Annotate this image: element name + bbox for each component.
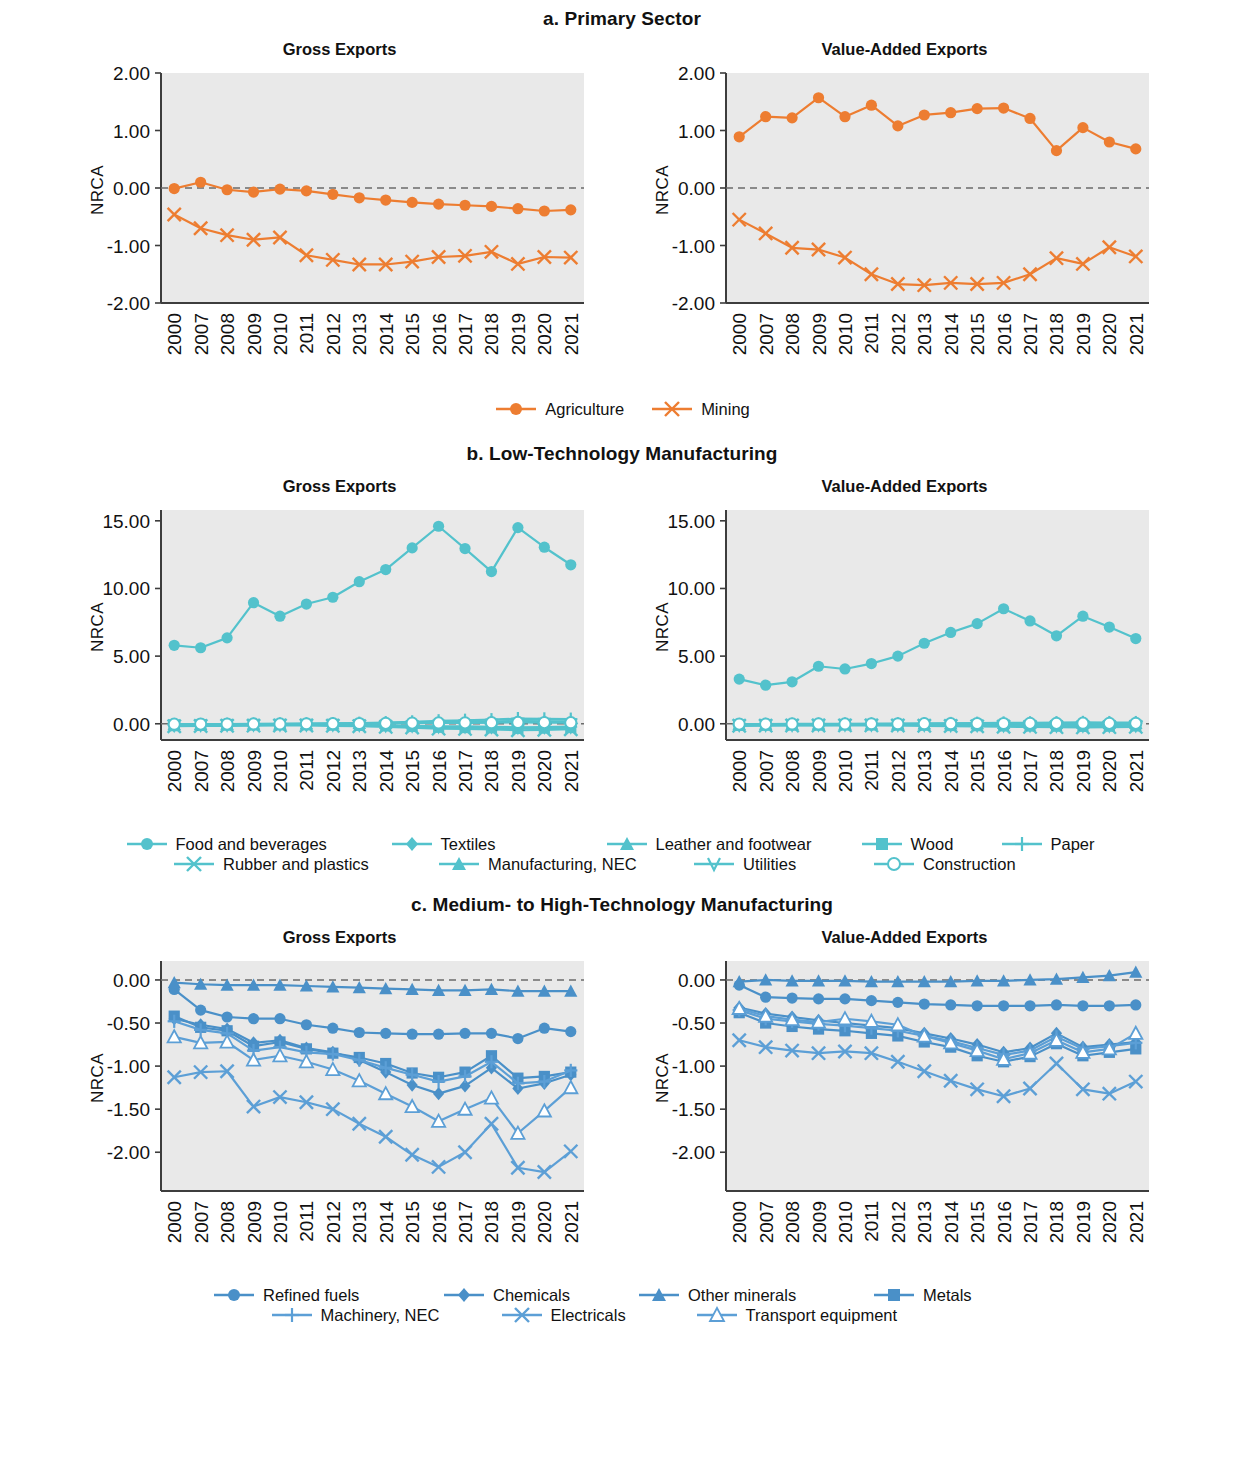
legend-item-transport-equipment[interactable]: Transport equipment	[695, 1305, 975, 1325]
svg-text:2013: 2013	[914, 1201, 935, 1243]
chart-c-gross-svg: 0.00-0.50-1.00-1.50-2.002000200720082009…	[87, 953, 592, 1283]
svg-text:2007: 2007	[756, 313, 777, 355]
panel-b-title: b. Low-Technology Manufacturing	[0, 443, 1244, 465]
svg-text:-0.50: -0.50	[672, 1013, 715, 1034]
svg-text:2008: 2008	[782, 1201, 803, 1243]
legend-item-leather-and-footwear[interactable]: Leather and footwear	[605, 834, 860, 854]
legend-item-wood[interactable]: Wood	[860, 834, 1000, 854]
legend-marker-cross-icon	[650, 399, 694, 419]
chart-a-va-ylabel: NRCA	[653, 165, 673, 215]
svg-text:-2.00: -2.00	[107, 293, 150, 314]
chart-c-gross-ylabel: NRCA	[88, 1053, 108, 1103]
chart-b-gross-title: Gross Exports	[87, 477, 592, 496]
svg-text:2013: 2013	[349, 1201, 370, 1243]
legend-panel-c: Refined fuelsChemicalsOther mineralsMeta…	[172, 1285, 1072, 1325]
legend-item-label: Agriculture	[545, 400, 624, 419]
svg-text:2007: 2007	[756, 1201, 777, 1243]
legend-item-paper[interactable]: Paper	[1000, 834, 1120, 854]
legend-marker-triangle-icon	[637, 1285, 681, 1305]
legend-panel-a: AgricultureMining	[0, 399, 1244, 419]
svg-text:2000: 2000	[729, 313, 750, 355]
legend-marker-circle-open-icon	[872, 854, 916, 874]
legend-item-utilities[interactable]: Utilities	[692, 854, 872, 874]
legend-item-label: Other minerals	[688, 1286, 796, 1305]
chart-b-gross-svg: 15.0010.005.000.002000200720082009201020…	[87, 502, 592, 832]
chart-a-va-title: Value-Added Exports	[652, 40, 1157, 59]
legend-item-manufacturing-nec[interactable]: Manufacturing, NEC	[437, 854, 692, 874]
svg-text:2015: 2015	[967, 1201, 988, 1243]
legend-item-electricals[interactable]: Electricals	[500, 1305, 695, 1325]
svg-text:10.00: 10.00	[667, 578, 715, 599]
legend-marker-vee-icon	[692, 854, 736, 874]
legend-marker-circle-icon	[125, 834, 169, 854]
svg-text:2009: 2009	[809, 1201, 830, 1243]
svg-text:2016: 2016	[994, 1201, 1015, 1243]
svg-text:-2.00: -2.00	[107, 1142, 150, 1163]
legend-item-label: Refined fuels	[263, 1286, 359, 1305]
chart-c-va-ylabel: NRCA	[653, 1053, 673, 1103]
chart-a-va-plot: NRCA 2.001.000.00-1.00-2.002000200720082…	[652, 65, 1157, 395]
svg-text:-0.50: -0.50	[107, 1013, 150, 1034]
svg-text:2021: 2021	[561, 1201, 582, 1243]
svg-text:2017: 2017	[455, 313, 476, 355]
svg-text:2008: 2008	[217, 1201, 238, 1243]
svg-text:0.00: 0.00	[113, 970, 150, 991]
chart-b-gross-exports: Gross Exports NRCA 15.0010.005.000.00200…	[87, 477, 592, 832]
svg-text:2017: 2017	[455, 750, 476, 792]
legend-item-label: Food and beverages	[176, 835, 327, 854]
svg-text:2013: 2013	[349, 750, 370, 792]
svg-text:2020: 2020	[1099, 313, 1120, 355]
svg-text:2007: 2007	[191, 1201, 212, 1243]
legend-item-other-minerals[interactable]: Other minerals	[637, 1285, 872, 1305]
svg-text:2012: 2012	[323, 1201, 344, 1243]
svg-text:2012: 2012	[888, 313, 909, 355]
svg-text:-1.00: -1.00	[672, 236, 715, 257]
legend-panel-b: Food and beveragesTextilesLeather and fo…	[77, 834, 1167, 874]
svg-text:2019: 2019	[508, 1201, 529, 1243]
legend-marker-diamond-icon	[442, 1285, 486, 1305]
svg-text:2000: 2000	[164, 750, 185, 792]
svg-text:2010: 2010	[270, 750, 291, 792]
svg-text:2016: 2016	[429, 313, 450, 355]
legend-item-chemicals[interactable]: Chemicals	[442, 1285, 637, 1305]
legend-item-food-and-beverages[interactable]: Food and beverages	[125, 834, 390, 854]
svg-text:2017: 2017	[1020, 1201, 1041, 1243]
svg-text:2011: 2011	[296, 313, 317, 354]
svg-text:2008: 2008	[782, 313, 803, 355]
svg-text:2019: 2019	[1073, 1201, 1094, 1243]
svg-text:2007: 2007	[191, 313, 212, 355]
svg-text:0.00: 0.00	[113, 178, 150, 199]
svg-text:2008: 2008	[217, 313, 238, 355]
legend-item-metals[interactable]: Metals	[872, 1285, 1032, 1305]
svg-text:2012: 2012	[323, 313, 344, 355]
legend-item-rubber-and-plastics[interactable]: Rubber and plastics	[172, 854, 437, 874]
legend-item-label: Leather and footwear	[656, 835, 812, 854]
svg-text:2021: 2021	[1126, 1201, 1147, 1243]
chart-c-gross-plot: NRCA 0.00-0.50-1.00-1.50-2.0020002007200…	[87, 953, 592, 1283]
svg-text:15.00: 15.00	[102, 511, 150, 532]
svg-text:2009: 2009	[244, 313, 265, 355]
chart-c-value-added-exports: Value-Added Exports NRCA 0.00-0.50-1.00-…	[652, 928, 1157, 1283]
chart-b-va-title: Value-Added Exports	[652, 477, 1157, 496]
svg-text:5.00: 5.00	[113, 646, 150, 667]
svg-text:2010: 2010	[835, 750, 856, 792]
legend-item-machinery-nec[interactable]: Machinery, NEC	[270, 1305, 500, 1325]
svg-text:1.00: 1.00	[678, 121, 715, 142]
svg-text:-1.50: -1.50	[672, 1099, 715, 1120]
svg-text:0.00: 0.00	[678, 178, 715, 199]
svg-text:2019: 2019	[1073, 313, 1094, 355]
legend-item-label: Utilities	[743, 855, 796, 874]
svg-text:2020: 2020	[534, 1201, 555, 1243]
legend-item-construction[interactable]: Construction	[872, 854, 1072, 874]
svg-text:2015: 2015	[402, 1201, 423, 1243]
legend-marker-cross-icon	[500, 1305, 544, 1325]
legend-item-refined-fuels[interactable]: Refined fuels	[212, 1285, 442, 1305]
svg-text:2000: 2000	[729, 750, 750, 792]
legend-item-textiles[interactable]: Textiles	[390, 834, 605, 854]
svg-text:2011: 2011	[861, 313, 882, 354]
legend-marker-square-icon	[860, 834, 904, 854]
svg-text:2021: 2021	[1126, 313, 1147, 355]
svg-text:2020: 2020	[534, 750, 555, 792]
legend-item-agriculture[interactable]: Agriculture	[494, 399, 624, 419]
legend-item-mining[interactable]: Mining	[650, 399, 750, 419]
